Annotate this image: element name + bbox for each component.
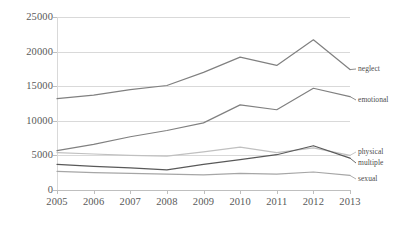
x-axis-tick-label: 2009 <box>184 196 224 208</box>
x-axis-tick-mark <box>277 190 278 194</box>
x-axis-tick-mark <box>167 190 168 194</box>
x-axis-tick-label: 2010 <box>220 196 260 208</box>
y-axis-tick-mark <box>53 121 57 122</box>
series-line-emotional <box>57 88 350 150</box>
series-label-sexual: sexual <box>358 175 377 183</box>
series-lines <box>0 0 409 226</box>
x-axis-tick-label: 2005 <box>37 196 77 208</box>
leader-line-sexual <box>350 175 356 179</box>
y-axis-tick-mark <box>53 86 57 87</box>
x-axis-tick-mark <box>57 190 58 194</box>
series-label-multiple: multiple <box>358 159 383 167</box>
leader-line-multiple <box>350 158 356 163</box>
x-axis-tick-mark <box>313 190 314 194</box>
x-axis-tick-label: 2008 <box>147 196 187 208</box>
y-axis-tick-mark <box>53 155 57 156</box>
x-axis-tick-mark <box>204 190 205 194</box>
x-axis-tick-mark <box>240 190 241 194</box>
leader-line-physical <box>350 152 356 155</box>
y-axis-tick-mark <box>53 52 57 53</box>
x-axis-tick-label: 2011 <box>257 196 297 208</box>
x-axis-tick-label: 2006 <box>74 196 114 208</box>
leader-line-emotional <box>350 97 356 100</box>
series-line-physical <box>57 147 350 156</box>
x-axis-tick-labels: 200520062007200820092010201120122013 <box>57 196 351 216</box>
y-axis-tick-mark <box>53 17 57 18</box>
series-line-neglect <box>57 40 350 99</box>
series-label-neglect: neglect <box>358 65 380 73</box>
x-axis-tick-label: 2007 <box>110 196 150 208</box>
x-axis-tick-mark <box>130 190 131 194</box>
x-axis-tick-mark <box>350 190 351 194</box>
x-axis-tick-label: 2012 <box>293 196 333 208</box>
series-line-sexual <box>57 171 350 175</box>
x-axis-tick-mark <box>94 190 95 194</box>
x-axis-tick-label: 2013 <box>330 196 370 208</box>
series-label-physical: physical <box>358 148 383 156</box>
line-chart: 0500010000150002000025000 20052006200720… <box>0 0 409 226</box>
leader-line-neglect <box>350 69 356 70</box>
series-label-emotional: emotional <box>358 96 388 104</box>
